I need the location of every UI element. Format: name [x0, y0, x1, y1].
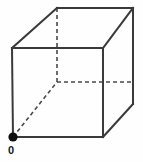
origin-dot — [8, 132, 17, 141]
cube-wireframe-svg — [0, 0, 143, 162]
cube-figure: 0 — [0, 0, 143, 162]
bottom-left-diagonal-hidden-edge — [13, 82, 57, 137]
origin-label: 0 — [8, 143, 14, 157]
top-left-diagonal-edge — [12, 8, 57, 48]
top-right-diagonal-edge — [103, 8, 133, 48]
front-left-edge — [12, 48, 13, 137]
bottom-right-diagonal-edge — [103, 104, 133, 137]
visible-edges-group — [12, 8, 133, 137]
hidden-edges-group — [13, 8, 133, 137]
